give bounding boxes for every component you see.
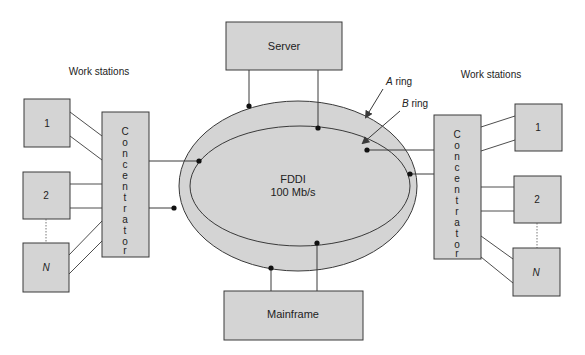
right-station-n-label: N — [532, 267, 540, 278]
ring-label-name: FDDI — [280, 173, 306, 185]
left-node-dot-b — [196, 158, 201, 163]
left-station-1-label: 1 — [44, 118, 50, 129]
fddi-diagram: FDDI 100 Mb/s A ring B ring Server Mainf… — [0, 0, 585, 355]
server-node-dot-b — [315, 125, 320, 130]
svg-text:o: o — [122, 137, 128, 148]
svg-text:t: t — [124, 225, 127, 236]
right-station-1-link-b — [481, 140, 515, 151]
svg-text:n: n — [122, 148, 128, 159]
left-concentrator-label: C o n c e n t r a t o r — [121, 126, 128, 256]
svg-text:C: C — [453, 129, 460, 140]
left-station-n-link-b — [69, 241, 102, 274]
a-ring-label: A ring — [385, 76, 412, 87]
right-node-dot-b — [364, 147, 369, 152]
server-label: Server — [268, 40, 301, 52]
mainframe-node-dot-a — [268, 265, 273, 270]
left-node-dot-a — [171, 205, 176, 210]
left-heading: Work stations — [69, 66, 129, 77]
svg-text:C: C — [121, 126, 128, 137]
svg-text:a: a — [122, 214, 128, 225]
svg-text:o: o — [454, 140, 460, 151]
right-station-n-link-a — [481, 236, 513, 259]
svg-text:c: c — [455, 162, 460, 173]
svg-text:n: n — [454, 151, 460, 162]
svg-text:e: e — [454, 173, 460, 184]
svg-text:a: a — [454, 217, 460, 228]
svg-text:n: n — [122, 181, 128, 192]
right-station-1-label: 1 — [535, 122, 541, 133]
svg-text:n: n — [454, 184, 460, 195]
b-ring-label: B ring — [402, 98, 428, 109]
left-station-1-link-a — [70, 112, 102, 136]
right-station-n-link-b — [481, 257, 513, 283]
svg-text:t: t — [124, 192, 127, 203]
left-station-n-link-a — [69, 221, 102, 255]
right-station-2-label: 2 — [534, 194, 540, 205]
left-station-1-link-b — [70, 136, 102, 160]
svg-text:t: t — [456, 195, 459, 206]
a-ring-arrow — [366, 89, 383, 117]
right-heading: Work stations — [461, 69, 521, 80]
left-station-n-label: N — [42, 262, 50, 273]
left-workstation-group: Work stations C o n c e n t r a t o r 1 … — [23, 66, 202, 292]
mainframe-node-dot-b — [314, 240, 319, 245]
ring-label-speed: 100 Mb/s — [270, 186, 316, 198]
svg-text:t: t — [456, 228, 459, 239]
a-ring-callout: A ring — [366, 76, 412, 117]
right-concentrator-label: C o n c e n t r a t o r — [453, 129, 460, 259]
svg-text:c: c — [123, 159, 128, 170]
left-station-2-label: 2 — [43, 190, 49, 201]
server-node-dot-a — [246, 103, 251, 108]
right-node-dot-a — [407, 171, 412, 176]
right-station-1-link-a — [481, 116, 515, 127]
fddi-ring: FDDI 100 Mb/s — [179, 101, 417, 271]
mainframe-label: Mainframe — [267, 308, 319, 320]
svg-text:e: e — [122, 170, 128, 181]
